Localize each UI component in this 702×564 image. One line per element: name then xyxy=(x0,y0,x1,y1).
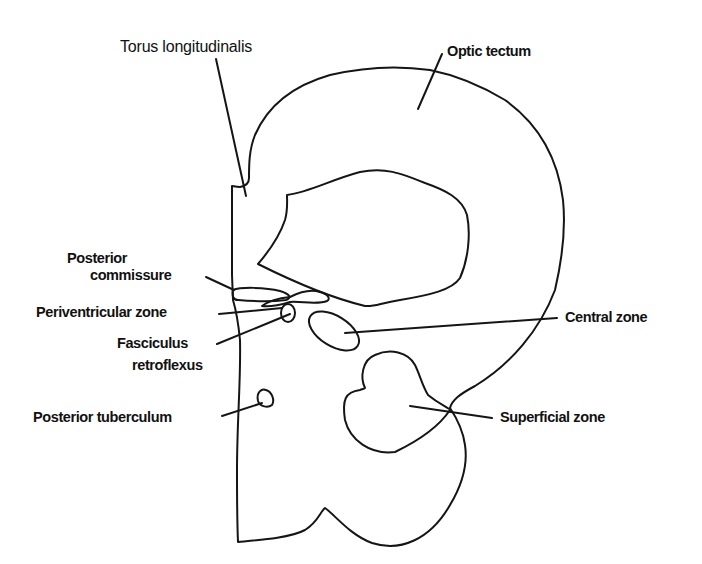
periventricular-zone-shape xyxy=(262,291,329,306)
leader-posterior-commissure xyxy=(206,277,234,290)
label-superficial-zone: Superficial zone xyxy=(500,409,605,426)
leader-central-zone xyxy=(345,318,557,333)
label-fasciculus-retroflexus-line1: Fasciculus xyxy=(117,335,188,352)
label-posterior-commissure-line2: commissure xyxy=(90,267,171,284)
leader-optic-tectum xyxy=(418,54,442,109)
label-periventricular-zone: Periventricular zone xyxy=(36,304,167,321)
label-torus-longitudinalis: Torus longitudinalis xyxy=(120,38,252,55)
label-fasciculus-retroflexus-line2: retroflexus xyxy=(132,357,203,374)
leader-torus-longitudinalis xyxy=(216,59,246,196)
fasciculus-retroflexus-shape xyxy=(281,304,295,322)
leader-posterior-tuberculum xyxy=(222,403,262,416)
label-posterior-commissure-line1: Posterior xyxy=(67,250,127,267)
label-central-zone: Central zone xyxy=(565,309,647,326)
central-zone-shape xyxy=(302,303,365,358)
leader-periventricular-zone xyxy=(219,308,282,314)
tectal-ventricle xyxy=(258,170,469,306)
superficial-zone-shape xyxy=(344,352,450,453)
leader-fasciculus-retroflexus xyxy=(217,314,290,344)
label-posterior-tuberculum: Posterior tuberculum xyxy=(33,409,172,426)
label-optic-tectum: Optic tectum xyxy=(447,43,531,60)
